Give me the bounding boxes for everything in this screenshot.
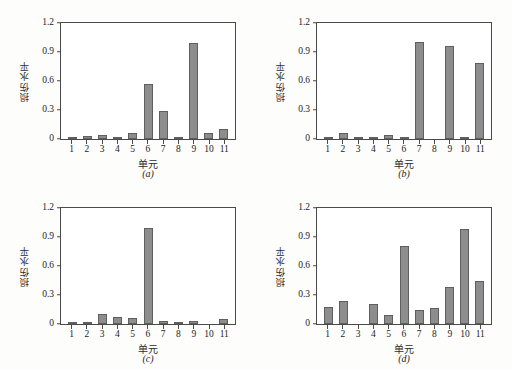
plot-area: 00.30.60.91.21234567891011单元: [316, 22, 492, 140]
bar: [174, 322, 183, 324]
bar-slot: [442, 23, 457, 139]
bar-slot: [140, 208, 155, 324]
bar: [159, 321, 168, 324]
x-tick-label: 6: [146, 145, 151, 155]
bar-slot: [186, 23, 201, 139]
panel-caption: (a): [60, 168, 236, 179]
y-tick: 0.9: [298, 47, 317, 57]
bar: [475, 63, 484, 139]
x-tick-label: 6: [402, 145, 407, 155]
x-tick: 7: [412, 140, 427, 156]
x-tick: 10: [201, 140, 216, 156]
bar: [354, 137, 363, 139]
panel-caption: (c): [60, 353, 236, 364]
bar-slot: [396, 208, 411, 324]
chart-panel-b: 损伤水平00.30.60.91.21234567891011单元(b): [256, 0, 512, 185]
chart-panel-d: 损伤水平00.30.60.91.21234567891011单元(d): [256, 185, 512, 370]
bar-slot: [80, 23, 95, 139]
y-tick-label: 0.9: [42, 47, 54, 57]
chart-panel-c: 损伤水平00.30.60.91.21234567891011单元(c): [0, 185, 256, 370]
x-tick-label: 8: [432, 330, 437, 340]
x-tick-label: 3: [356, 145, 361, 155]
plot-frame: 00.30.60.91.2: [60, 207, 236, 325]
y-axis-label: 损伤水平: [274, 22, 288, 140]
x-tick: 8: [427, 140, 442, 156]
bar-slot: [412, 208, 427, 324]
x-axis: 1234567891011: [316, 325, 492, 341]
x-tick-label: 3: [356, 330, 361, 340]
bar: [83, 322, 92, 324]
x-tick: 6: [396, 325, 411, 341]
x-tick: 3: [95, 325, 110, 341]
bar-slot: [321, 208, 336, 324]
x-tick: 10: [201, 325, 216, 341]
x-tick-label: 5: [386, 330, 391, 340]
bar: [128, 318, 137, 324]
bar: [68, 137, 77, 139]
y-tick: 0.6: [42, 76, 61, 86]
y-axis-label: 损伤水平: [18, 22, 32, 140]
plot-area: 00.30.60.91.21234567891011单元: [60, 207, 236, 325]
y-tick-label: 0.9: [298, 47, 310, 57]
x-tick-label: 7: [161, 330, 166, 340]
bar: [324, 137, 333, 139]
x-tick: 8: [171, 325, 186, 341]
bar: [174, 137, 183, 139]
bar: [83, 136, 92, 139]
x-tick: 5: [381, 140, 396, 156]
bar-slot: [472, 208, 487, 324]
plot-frame: 00.30.60.91.2: [60, 22, 236, 140]
bar: [460, 137, 469, 139]
bar: [369, 304, 378, 324]
x-tick: 2: [335, 140, 350, 156]
x-tick: 5: [125, 325, 140, 341]
x-tick-label: 7: [417, 330, 422, 340]
x-tick: 7: [156, 325, 171, 341]
x-tick: 11: [217, 140, 232, 156]
bar: [159, 111, 168, 139]
bar-slot: [336, 208, 351, 324]
x-tick-label: 2: [85, 145, 90, 155]
bar-slot: [125, 208, 140, 324]
y-tick: 0.3: [42, 105, 61, 115]
x-tick: 1: [64, 140, 79, 156]
x-tick-label: 4: [115, 330, 120, 340]
x-tick-label: 11: [220, 145, 229, 155]
bar: [324, 307, 333, 324]
y-tick: 1.2: [298, 18, 317, 28]
bar-slot: [366, 23, 381, 139]
y-tick: 0.9: [42, 47, 61, 57]
y-tick-label: 0.6: [42, 261, 54, 271]
bar-slot: [216, 23, 231, 139]
x-tick-label: 4: [115, 145, 120, 155]
bar: [144, 228, 153, 324]
y-tick-label: 1.2: [42, 18, 54, 28]
x-tick-label: 1: [69, 145, 74, 155]
x-tick: 11: [473, 325, 488, 341]
x-tick-label: 11: [220, 330, 229, 340]
bar-slot: [110, 23, 125, 139]
y-tick-label: 1.2: [42, 203, 54, 213]
x-tick: 8: [171, 140, 186, 156]
bar-slot: [125, 23, 140, 139]
bar: [68, 322, 77, 324]
bar: [128, 133, 137, 139]
x-tick-label: 7: [417, 145, 422, 155]
x-tick-label: 10: [204, 330, 214, 340]
x-tick-label: 5: [386, 145, 391, 155]
x-tick: 9: [186, 325, 201, 341]
bar-slot: [110, 208, 125, 324]
x-tick-label: 8: [432, 145, 437, 155]
bar-series: [61, 23, 235, 139]
y-axis-label: 损伤水平: [18, 207, 32, 325]
y-tick-label: 0.9: [298, 232, 310, 242]
bar-slot: [396, 23, 411, 139]
x-tick-label: 1: [325, 145, 330, 155]
x-tick-label: 7: [161, 145, 166, 155]
x-tick: 9: [442, 325, 457, 341]
bar: [98, 314, 107, 324]
x-tick: 5: [381, 325, 396, 341]
bar: [384, 315, 393, 324]
x-axis: 1234567891011: [316, 140, 492, 156]
y-tick: 1.2: [298, 203, 317, 213]
